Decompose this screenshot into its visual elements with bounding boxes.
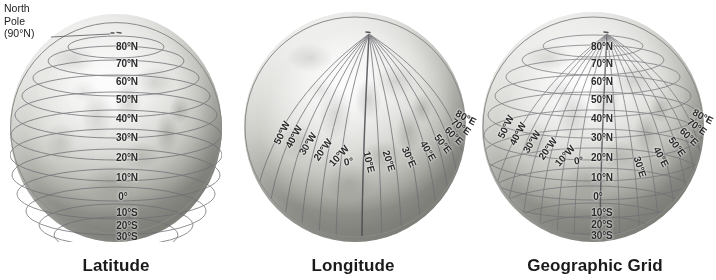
lat-label-20n: 20°N (116, 153, 138, 163)
lat-label-50n: 50°N (116, 95, 138, 105)
lat-label-10s: 10°S (116, 208, 137, 218)
panel-longitude: 50°W 40°W 30°W 20°W 10°W 0° 10°E 20°E 30… (236, 0, 470, 280)
panel-latitude: 80°N 70°N 60°N 50°N 40°N 30°N 20°N 10°N … (0, 0, 232, 280)
lat-label-20s: 20°S (591, 220, 612, 230)
lat-label-50n: 50°N (591, 95, 613, 105)
lat-label-10s: 10°S (591, 208, 612, 218)
lat-label-20s: 20°S (116, 221, 137, 231)
lat-label-10n: 10°N (591, 173, 613, 183)
lat-label-0: 0° (593, 192, 602, 202)
panel-geographic-grid: 80°N 70°N 60°N 50°N 40°N 30°N 20°N 10°N … (474, 0, 716, 280)
lat-label-60n: 60°N (116, 77, 138, 87)
lat-label-70n: 70°N (116, 59, 138, 69)
callout-line-3: (90°N) (4, 27, 34, 40)
lat-label-80n: 80°N (116, 42, 138, 52)
lat-label-10n: 10°N (116, 173, 138, 183)
lat-label-30s: 30°S (116, 232, 137, 242)
lat-label-30n: 30°N (591, 133, 613, 143)
lat-label-80n: 80°N (591, 42, 613, 52)
lat-label-0: 0° (118, 192, 127, 202)
north-pole-callout: North Pole (90°N) (4, 2, 34, 40)
lat-label-40n: 40°N (116, 114, 138, 124)
lat-label-30n: 30°N (116, 133, 138, 143)
caption-geographic-grid: Geographic Grid (474, 256, 716, 276)
callout-line-2: Pole (4, 15, 34, 28)
callout-line-1: North (4, 2, 34, 15)
three-globes-figure: 80°N 70°N 60°N 50°N 40°N 30°N 20°N 10°N … (0, 0, 716, 280)
lat-label-30s: 30°S (591, 231, 612, 241)
lon-label-0: 0° (573, 155, 584, 166)
lat-label-20n: 20°N (591, 153, 613, 163)
globe-latitude: 80°N 70°N 60°N 50°N 40°N 30°N 20°N 10°N … (10, 14, 222, 242)
lat-label-60n: 60°N (591, 77, 613, 87)
lat-label-70n: 70°N (591, 59, 613, 69)
lat-label-40n: 40°N (591, 114, 613, 124)
globe-longitude: 50°W 40°W 30°W 20°W 10°W 0° 10°E 20°E 30… (244, 12, 466, 242)
caption-latitude: Latitude (0, 256, 232, 276)
globe-geographic-grid: 80°N 70°N 60°N 50°N 40°N 30°N 20°N 10°N … (482, 12, 704, 242)
caption-longitude: Longitude (236, 256, 470, 276)
lon-label-0: 0° (343, 156, 354, 167)
